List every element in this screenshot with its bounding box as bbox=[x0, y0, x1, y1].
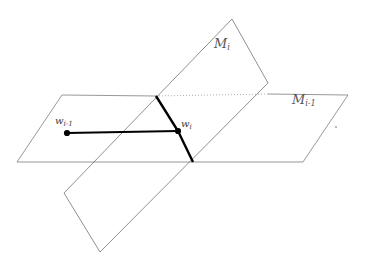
label-point-w-i: wi bbox=[181, 119, 192, 130]
plane-tilted-outline bbox=[64, 19, 268, 252]
label-manifold-i-symbol: M bbox=[214, 36, 227, 51]
label-manifold-i-minus-1-symbol: M bbox=[292, 92, 305, 107]
point-markers-group bbox=[64, 126, 337, 136]
label-point-w-i-minus-1-subscript: i-1 bbox=[64, 119, 73, 128]
figure-canvas: Mi Mi-1 wi-1 wi bbox=[0, 0, 365, 270]
geodesic-path-group bbox=[67, 96, 193, 162]
label-point-w-i-minus-1: wi-1 bbox=[55, 116, 73, 127]
label-point-w-i-symbol: w bbox=[181, 118, 190, 129]
dot-w-i-minus-1 bbox=[64, 130, 70, 136]
label-manifold-i-minus-1-subscript: i-1 bbox=[305, 98, 316, 108]
plane-horizontal-top-edge-solid bbox=[62, 95, 156, 96]
manifold-diagram-svg bbox=[0, 0, 365, 270]
geodesic-segment-on-mi-minus-1 bbox=[67, 131, 178, 133]
label-point-w-i-subscript: i bbox=[190, 122, 192, 131]
label-manifold-i: Mi bbox=[214, 38, 230, 52]
label-manifold-i-subscript: i bbox=[227, 42, 230, 52]
plane-tilted-group bbox=[64, 19, 268, 252]
label-point-w-i-minus-1-symbol: w bbox=[55, 115, 64, 126]
plane-horizontal-left-edge bbox=[17, 95, 62, 162]
label-manifold-i-minus-1: Mi-1 bbox=[292, 94, 316, 108]
plane-horizontal-top-edge-hidden bbox=[156, 94, 268, 96]
speck-mark bbox=[335, 126, 337, 128]
